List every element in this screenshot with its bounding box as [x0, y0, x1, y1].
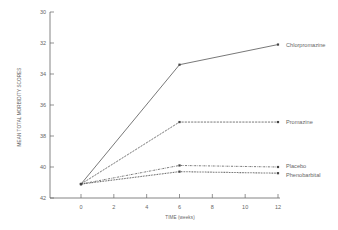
data-point-marker: [178, 164, 180, 166]
x-tick-label: 0: [79, 204, 82, 210]
data-point-marker: [277, 43, 279, 45]
y-tick-label: 38: [40, 133, 46, 139]
x-tick-label: 6: [178, 204, 181, 210]
series-label-promazine: Promazine: [286, 119, 313, 125]
data-point-marker: [80, 183, 82, 185]
y-tick-label: 30: [40, 9, 46, 15]
series-line-promazine: [81, 122, 278, 184]
series-label-placebo: Placebo: [286, 163, 306, 169]
series-label-phenobarbital: Phenobarbital: [286, 172, 321, 178]
axes: 30323436384042024681012TIME (weeks)MEAN …: [17, 9, 281, 220]
x-tick-label: 4: [145, 204, 148, 210]
y-tick-label: 40: [40, 164, 46, 170]
series-labels: ChlorpromazinePromazinePlaceboPhenobarbi…: [286, 42, 325, 178]
line-chart: 30323436384042024681012TIME (weeks)MEAN …: [0, 0, 338, 230]
data-point-marker: [178, 171, 180, 173]
x-tick-label: 10: [242, 204, 248, 210]
y-axis-title: MEAN TOTAL MORBIDITY SCORES: [17, 68, 22, 147]
y-tick-label: 34: [40, 71, 46, 77]
data-point-marker: [277, 172, 279, 174]
x-tick-label: 8: [211, 204, 214, 210]
x-tick-label: 2: [112, 204, 115, 210]
y-tick-label: 36: [40, 102, 46, 108]
series-line-phenobarbital: [81, 172, 278, 184]
series-label-chlorpromazine: Chlorpromazine: [286, 42, 325, 48]
x-tick-label: 12: [275, 204, 281, 210]
series-group: [80, 43, 279, 185]
y-tick-label: 42: [40, 195, 46, 201]
data-point-marker: [178, 64, 180, 66]
data-point-marker: [277, 121, 279, 123]
series-line-placebo: [81, 165, 278, 184]
y-tick-label: 32: [40, 40, 46, 46]
x-axis-title: TIME (weeks): [165, 215, 195, 220]
data-point-marker: [277, 166, 279, 168]
data-point-marker: [178, 121, 180, 123]
